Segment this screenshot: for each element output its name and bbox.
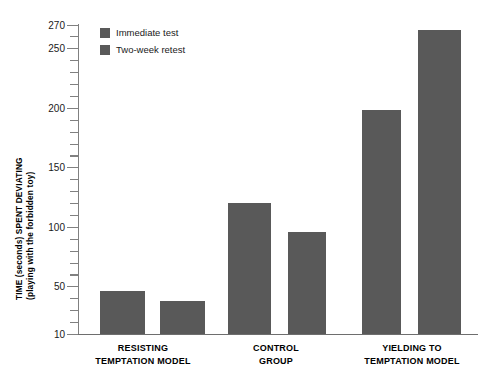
bar	[160, 301, 205, 334]
x-axis-group-label-resisting: RESISTING TEMPTATION MODEL	[79, 342, 207, 367]
y-axis-major-tick	[67, 334, 78, 335]
bar	[228, 203, 271, 334]
legend: Immediate test Two-week retest	[100, 24, 185, 58]
x-axis-group-label-line-1: CONTROL	[212, 342, 340, 355]
x-axis-group-label-line-2: GROUP	[212, 355, 340, 368]
bar	[100, 291, 145, 334]
legend-swatch-icon	[100, 45, 110, 55]
legend-item-two-week-retest: Two-week retest	[100, 41, 185, 58]
legend-swatch-icon	[100, 28, 110, 38]
bar	[418, 30, 461, 334]
x-axis-group-label-line-2: TEMPTATION MODEL	[79, 355, 207, 368]
x-axis-group-label-control: CONTROL GROUP	[212, 342, 340, 367]
bar-chart: TIME (seconds) SPENT DEVIATING (playing …	[0, 0, 483, 384]
x-axis-line	[78, 334, 478, 335]
legend-item-immediate-test: Immediate test	[100, 24, 185, 41]
x-axis-group-label-yielding: YIELDING TO TEMPTATION MODEL	[347, 342, 477, 367]
bars-group	[0, 0, 483, 334]
x-axis-group-label-line-1: YIELDING TO	[347, 342, 477, 355]
x-axis-group-label-line-2: TEMPTATION MODEL	[347, 355, 477, 368]
bar	[288, 232, 326, 334]
bar	[362, 110, 401, 334]
legend-label: Immediate test	[116, 27, 178, 38]
x-axis-group-label-line-1: RESISTING	[79, 342, 207, 355]
legend-label: Two-week retest	[116, 44, 185, 55]
